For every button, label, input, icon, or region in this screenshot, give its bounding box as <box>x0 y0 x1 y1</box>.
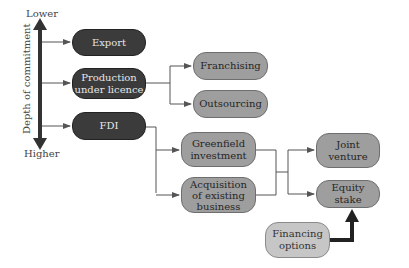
node-franchising-label: Franchising <box>200 60 261 72</box>
node-export-label: Export <box>92 37 126 49</box>
node-greenfield-investment: Greenfieldinvestment <box>181 132 256 167</box>
node-label-line: venture <box>328 151 367 162</box>
node-label-line: of existing <box>192 190 245 201</box>
node-label-line: Financing <box>272 228 323 239</box>
node-acquisition: Acquisitionof existingbusiness <box>181 177 256 213</box>
node-label-line: Greenfield <box>192 138 245 149</box>
node-joint-venture: Jointventure <box>316 133 380 168</box>
node-production-under-licence: Productionunder licence <box>72 68 146 99</box>
node-label-line: under licence <box>74 84 143 95</box>
axis-bottom-label: Higher <box>24 148 59 159</box>
node-label-line: Production <box>81 72 137 83</box>
node-franchising: Franchising <box>193 52 268 80</box>
node-fdi-label: FDI <box>100 120 119 132</box>
node-label-line: investment <box>190 150 246 161</box>
node-label-line: options <box>279 240 316 251</box>
node-equity-stake: Equity stake <box>316 180 380 208</box>
node-label-line: business <box>197 201 241 212</box>
node-label-line: Acquisition <box>190 179 247 190</box>
node-equity-label: Equity stake <box>317 182 379 206</box>
axis-top-label: Lower <box>26 8 58 19</box>
node-export: Export <box>72 29 146 56</box>
node-fdi: FDI <box>72 112 146 140</box>
node-label-line: Joint <box>336 139 360 150</box>
axis-title: Depth of commitment <box>21 23 32 134</box>
node-financing-options: Financingoptions <box>265 222 330 258</box>
node-outsourcing: Outsourcing <box>193 90 268 118</box>
node-outsourcing-label: Outsourcing <box>199 98 262 110</box>
